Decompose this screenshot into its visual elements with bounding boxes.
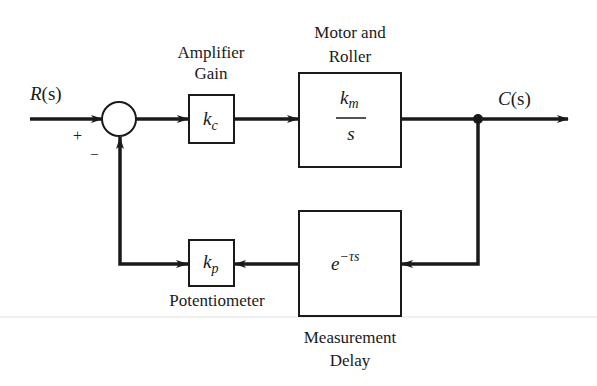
summing-junction xyxy=(102,102,136,136)
potentiometer-loop-line xyxy=(120,137,188,264)
delay-caption-line1: Measurement xyxy=(304,328,397,347)
potentiometer-caption: Potentiometer xyxy=(169,291,265,310)
input-label: R(s) xyxy=(29,83,62,105)
delay-caption-line2: Delay xyxy=(330,351,371,370)
plus-sign: + xyxy=(73,127,82,144)
block-diagram: R(s) + – Amplifier Gain kc Motor and Rol… xyxy=(0,0,597,386)
amplifier-caption-line1: Amplifier xyxy=(177,43,244,62)
motor-roller-block xyxy=(299,73,401,167)
feedback-to-delay-arrow xyxy=(402,119,478,264)
output-label: C(s) xyxy=(498,88,531,110)
motor-caption-line1: Motor and xyxy=(314,23,386,42)
motor-caption-line2: Roller xyxy=(329,47,372,66)
minus-sign: – xyxy=(90,146,99,161)
amplifier-caption-line2: Gain xyxy=(194,64,228,83)
motor-tf-denominator: s xyxy=(347,123,354,144)
